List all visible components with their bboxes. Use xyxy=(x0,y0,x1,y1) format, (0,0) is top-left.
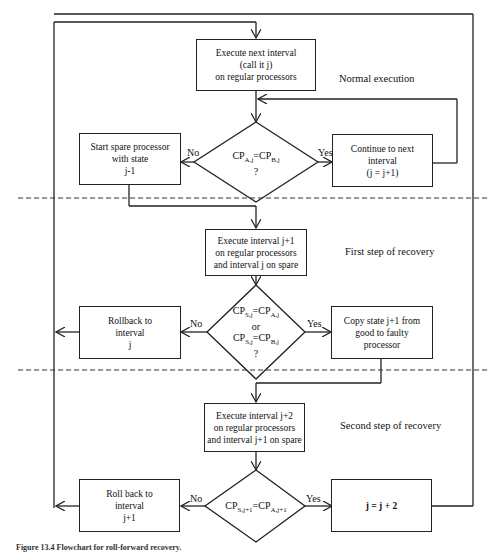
box-start-spare-processor: Start spare processor with state j-1 xyxy=(79,133,181,185)
box-line: j = j + 2 xyxy=(366,500,397,512)
box-execute-interval-j2: Execute interval j+2 on regular processo… xyxy=(204,403,305,452)
box-line: (j = j+1) xyxy=(367,167,399,179)
branch-no-1: No xyxy=(187,147,199,158)
branch-yes-3: Yes xyxy=(306,493,321,504)
box-line: processor xyxy=(364,339,400,351)
decision-1-text: CPA,j=CPB,j ? xyxy=(216,150,296,178)
box-line: on regular processors xyxy=(215,247,296,259)
box-line: (call it j) xyxy=(240,59,273,71)
box-line: Execute interval j+2 xyxy=(216,410,293,422)
decision-3-text: CPS,j+1=CPA,j+1 xyxy=(210,500,302,516)
branch-no-2: No xyxy=(190,318,202,329)
box-line: j xyxy=(129,339,132,351)
box-line: Rollback to xyxy=(108,315,152,327)
box-line: good to faulty xyxy=(355,327,408,339)
box-line: and interval j+1 on spare xyxy=(207,434,302,446)
box-line: interval xyxy=(115,327,144,339)
box-rollback-interval-j1: Roll back to interval j+1 xyxy=(79,479,180,532)
section-label-second-recovery: Second step of recovery xyxy=(340,420,441,431)
branch-no-3: No xyxy=(190,493,202,504)
box-continue-next-interval: Continue to next interval (j = j+1) xyxy=(332,134,433,187)
branch-yes-2: Yes xyxy=(307,318,322,329)
box-line: Execute next interval xyxy=(216,47,297,59)
box-line: Continue to next xyxy=(351,143,414,155)
box-line: on regular processors xyxy=(215,71,296,83)
box-line: Copy state j+1 from xyxy=(344,315,420,327)
box-line: Roll back to xyxy=(106,488,152,500)
box-line: interval xyxy=(368,155,397,167)
section-label-normal: Normal execution xyxy=(339,73,415,84)
box-execute-next-interval: Execute next interval (call it j) on reg… xyxy=(196,39,316,91)
box-line: and interval j on spare xyxy=(214,259,298,271)
box-j-plus-2: j = j + 2 xyxy=(331,479,432,532)
box-line: j+1 xyxy=(123,512,136,524)
figure-caption: Figure 13.4 Flowchart for roll-forward r… xyxy=(16,543,181,552)
box-line: Start spare processor xyxy=(90,141,169,153)
box-copy-state: Copy state j+1 from good to faulty proce… xyxy=(331,306,433,359)
box-rollback-interval-j: Rollback to interval j xyxy=(79,306,181,359)
box-execute-interval-j1: Execute interval j+1 on regular processo… xyxy=(205,229,307,276)
decision-2-text: CPS,j=CPA,j or CPS,j=CPB,j ? xyxy=(221,305,291,359)
box-line: with state xyxy=(112,153,149,165)
box-line: Execute interval j+1 xyxy=(217,235,294,247)
section-label-first-recovery: First step of recovery xyxy=(345,246,435,257)
branch-yes-1: Yes xyxy=(318,147,333,158)
box-line: on regular processors xyxy=(214,422,295,434)
box-line: interval xyxy=(115,500,144,512)
box-line: j-1 xyxy=(125,165,136,177)
